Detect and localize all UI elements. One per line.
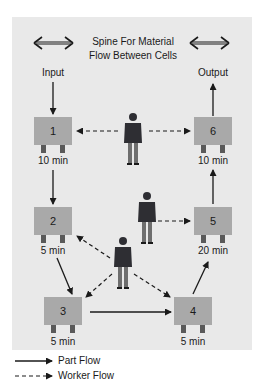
cell-2-number: 2: [34, 215, 72, 227]
output-label: Output: [198, 67, 228, 79]
cell-leg: [220, 235, 225, 243]
input-label: Input: [42, 67, 64, 79]
cell-1: 1: [34, 117, 72, 145]
worker-2-icon: [138, 192, 156, 244]
cell-2: 2: [34, 207, 72, 235]
worker-1-icon: [124, 113, 142, 165]
cell-3: 3: [44, 297, 82, 325]
legend-worker-flow-label: Worker Flow: [58, 370, 114, 382]
cell-4-time: 5 min: [181, 336, 205, 348]
cell-leg: [201, 145, 206, 153]
cell4-to-cell5-arrow: [193, 262, 208, 294]
spine-arrow-left-icon: [34, 37, 73, 49]
cell-leg: [70, 325, 75, 333]
cell-leg: [60, 145, 65, 153]
cell-6-time: 10 min: [198, 155, 228, 167]
worker3-to-cell2-arrow: [77, 236, 110, 258]
cell-5-number: 5: [194, 215, 232, 227]
cell-5-time: 20 min: [198, 245, 228, 257]
worker3-to-cell4-arrow: [134, 274, 170, 297]
cell-4: 4: [174, 297, 212, 325]
cell-1-time: 10 min: [38, 155, 68, 167]
worker3-to-cell3-arrow: [86, 274, 112, 297]
worker-3-icon: [114, 237, 132, 289]
cell-leg: [60, 235, 65, 243]
cell-leg: [41, 235, 46, 243]
cell-2-time: 5 min: [41, 245, 65, 257]
cell-leg: [200, 325, 205, 333]
cell-6-number: 6: [194, 125, 232, 137]
cell-5: 5: [194, 207, 232, 235]
cell-4-number: 4: [174, 305, 212, 317]
cell-leg: [220, 145, 225, 153]
cell-leg: [181, 325, 186, 333]
cell-leg: [41, 145, 46, 153]
title-line-2: Flow Between Cells: [89, 50, 177, 62]
cell-1-number: 1: [34, 125, 72, 137]
spine-arrow-right-icon: [190, 37, 229, 49]
legend-part-flow-label: Part Flow: [58, 355, 100, 367]
cell-leg: [201, 235, 206, 243]
cell-leg: [51, 325, 56, 333]
cell-3-time: 5 min: [51, 336, 75, 348]
title-line-1: Spine For Material: [92, 36, 174, 48]
cell-3-number: 3: [44, 305, 82, 317]
cell-6: 6: [194, 117, 232, 145]
cell2-to-cell3-arrow: [57, 258, 72, 294]
